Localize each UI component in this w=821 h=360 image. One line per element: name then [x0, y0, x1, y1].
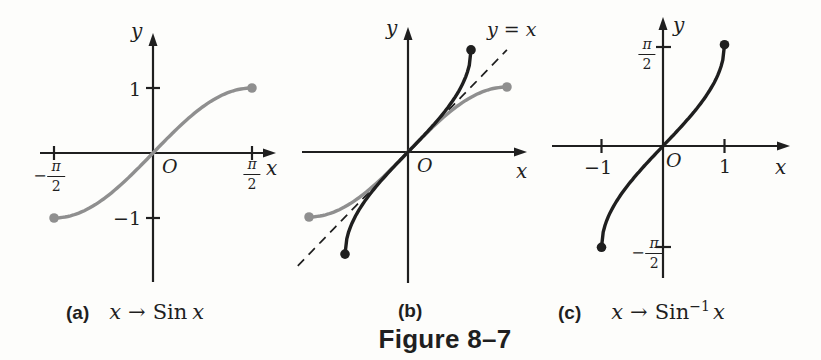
panel-c-origin-label: O [666, 151, 682, 170]
panel-a-ytick-label-neg1: −1 [113, 209, 141, 228]
panel-c-xtick-label-1: 1 [719, 157, 731, 176]
panel-c-x-axis-arrow-icon [777, 142, 790, 151]
map-var: x [109, 300, 121, 324]
panel-c-xtick-label-neg1: −1 [584, 158, 612, 177]
map-arg: x [192, 300, 204, 324]
panel-c [552, 17, 790, 278]
map-fn: Sin [655, 300, 690, 324]
fraction-denominator: 2 [52, 177, 61, 194]
panel-b-x-axis-arrow-icon [514, 148, 527, 157]
map-arg: x [713, 300, 725, 324]
panel-c-x-axis-label: x [775, 157, 786, 177]
curve-endpoint-dot [502, 82, 512, 92]
fraction-numerator: π [638, 37, 655, 55]
curve-endpoint-dot [597, 243, 607, 253]
caption-c-mapping: x→Sin−1x [611, 298, 725, 324]
curve-endpoint-dot [49, 213, 59, 223]
caption-b: (b) [398, 300, 422, 322]
curve-endpoint-dot [720, 40, 730, 50]
right-arrow-icon: → [630, 300, 648, 324]
panel-a-x-axis-label: x [266, 158, 277, 178]
panel-b-origin-label: O [417, 156, 433, 175]
fraction-denominator: 2 [643, 55, 652, 72]
caption-c: (c) x→Sin−1x [558, 298, 725, 324]
panel-b-y-axis-label: y [386, 18, 397, 38]
panel-a-xtick-label-neg-pi-over-2: − π 2 [33, 159, 65, 193]
fraction-numerator: π [646, 236, 663, 254]
curve-endpoint-dot [466, 45, 476, 55]
panel-a-y-axis-arrow-icon [149, 33, 158, 46]
panel-b [298, 27, 527, 283]
panel-c-ytick-label-neg-pi-over-2: − π 2 [631, 236, 663, 270]
map-var: x [611, 300, 623, 324]
pi-over-2-fraction: π 2 [48, 159, 65, 193]
caption-b-tag: (b) [398, 300, 422, 322]
fraction-numerator: π [243, 157, 260, 175]
panel-a [40, 33, 276, 282]
curve-endpoint-dot [247, 83, 257, 93]
pi-over-2-fraction: π 2 [243, 157, 260, 191]
caption-a-tag: (a) [66, 302, 89, 324]
panel-c-ytick-label-pi-over-2: π 2 [638, 37, 655, 71]
minus-sign: − [631, 245, 644, 261]
panel-b-x-axis-label: x [516, 161, 527, 181]
map-fn: Sin [153, 300, 188, 324]
panel-a-y-axis-label: y [131, 21, 142, 41]
curve-endpoint-dot [304, 212, 314, 222]
panel-b-y-axis-arrow-icon [404, 27, 413, 40]
caption-a-mapping: x→Sinx [109, 300, 204, 324]
panel-a-origin-label: O [162, 157, 178, 176]
caption-a: (a) x→Sinx [66, 300, 204, 324]
figure-8-7-page: y 1 −1 O x − π 2 π 2 y y = x O x y π 2 −… [0, 0, 821, 360]
fraction-numerator: π [48, 159, 65, 177]
panel-a-ytick-label-1: 1 [129, 80, 141, 99]
panel-c-y-axis-arrow-icon [659, 17, 668, 30]
panel-a-xtick-label-pi-over-2: π 2 [243, 157, 260, 191]
map-sup-inverse: −1 [689, 298, 710, 314]
curve-endpoint-dot [340, 249, 350, 259]
figure-caption: Figure 8–7 [378, 324, 511, 355]
caption-c-tag: (c) [558, 302, 581, 324]
panel-c-y-axis-label: y [673, 15, 684, 35]
fraction-denominator: 2 [248, 175, 257, 192]
y-equals-x-label: y = x [487, 20, 536, 39]
fraction-denominator: 2 [650, 254, 659, 271]
right-arrow-icon: → [128, 300, 146, 324]
pi-over-2-fraction: π 2 [646, 236, 663, 270]
minus-sign: − [33, 168, 46, 184]
pi-over-2-fraction: π 2 [638, 37, 655, 71]
